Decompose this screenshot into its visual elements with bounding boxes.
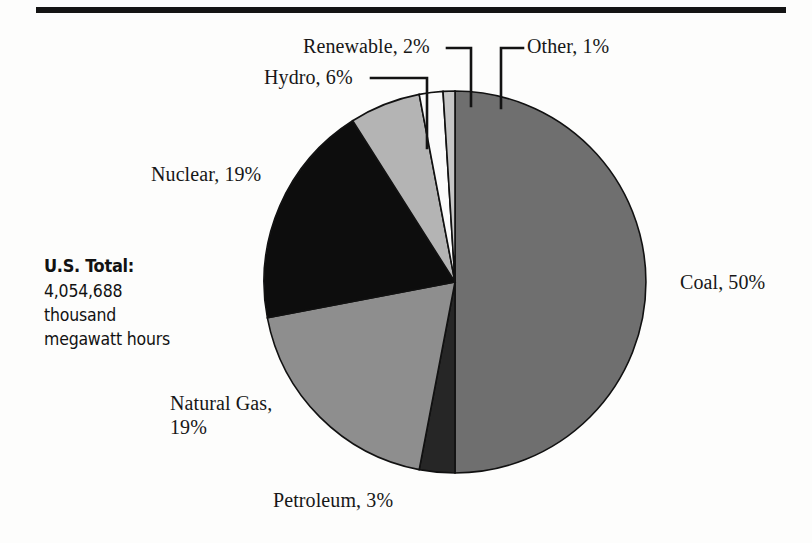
- slice-label-nuclear: Nuclear, 19%: [151, 163, 261, 187]
- slice-label-natural-gas-line2: 19%: [170, 416, 207, 438]
- chart-page: Renewable, 2% Other, 1% Hydro, 6% Nuclea…: [0, 0, 812, 543]
- pie-chart-figure: Renewable, 2% Other, 1% Hydro, 6% Nuclea…: [0, 0, 812, 543]
- pie-slices-group: [264, 91, 646, 473]
- slice-label-renewable: Renewable, 2%: [303, 35, 430, 59]
- slice-label-natural-gas: Natural Gas, 19%: [170, 392, 320, 439]
- pie-slice-coal: [455, 91, 646, 473]
- us-total-unit-line1: thousand: [44, 303, 204, 327]
- us-total-unit-line2: megawatt hours: [44, 327, 204, 351]
- slice-label-hydro: Hydro, 6%: [264, 66, 353, 90]
- slice-label-natural-gas-line1: Natural Gas,: [170, 392, 272, 414]
- us-total-value: 4,054,688: [44, 279, 204, 303]
- slice-label-other: Other, 1%: [527, 35, 609, 59]
- slice-label-petroleum: Petroleum, 3%: [273, 489, 393, 513]
- slice-label-coal: Coal, 50%: [680, 271, 765, 295]
- us-total-annotation: U.S. Total: 4,054,688 thousand megawatt …: [44, 254, 204, 351]
- us-total-heading: U.S. Total:: [44, 254, 204, 279]
